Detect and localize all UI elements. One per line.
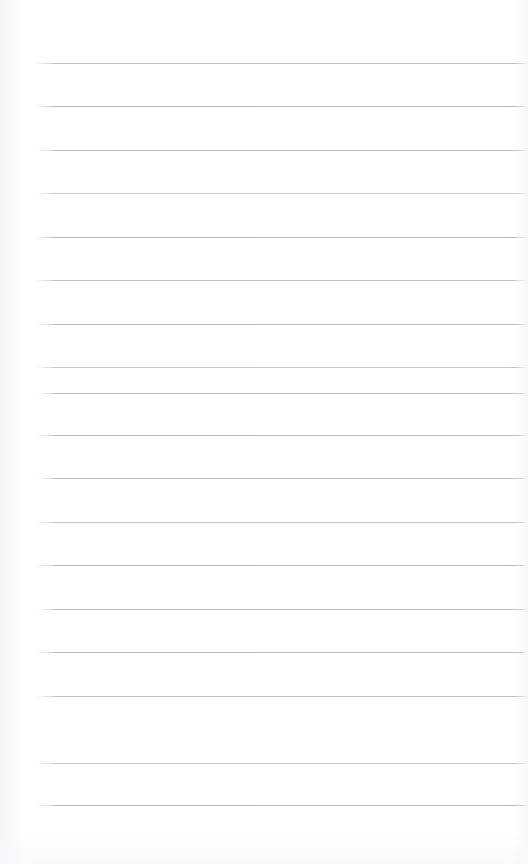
writing-line-4[interactable] <box>53 150 519 193</box>
writing-line-16[interactable] <box>54 652 524 696</box>
writing-line-6[interactable] <box>53 237 516 280</box>
writing-line-18[interactable] <box>55 763 525 805</box>
writing-line-2[interactable] <box>53 63 521 106</box>
writing-line-3[interactable] <box>53 106 520 150</box>
writing-line-9[interactable] <box>54 367 521 393</box>
writing-line-5[interactable] <box>53 193 517 237</box>
writing-line-12[interactable] <box>54 478 522 522</box>
rule-line-18 <box>55 805 525 806</box>
writing-line-14[interactable] <box>54 565 523 609</box>
writing-line-17[interactable] <box>55 696 524 763</box>
writing-line-8[interactable] <box>54 324 520 367</box>
writing-line-13[interactable] <box>54 522 522 565</box>
writing-line-15[interactable] <box>54 609 523 652</box>
writing-line-10[interactable] <box>54 393 521 435</box>
writing-line-11[interactable] <box>54 435 521 478</box>
writing-line-7[interactable] <box>54 280 519 324</box>
writing-line-1[interactable] <box>53 19 521 63</box>
ruled-lines-group <box>0 0 528 864</box>
paper-page <box>0 0 528 864</box>
